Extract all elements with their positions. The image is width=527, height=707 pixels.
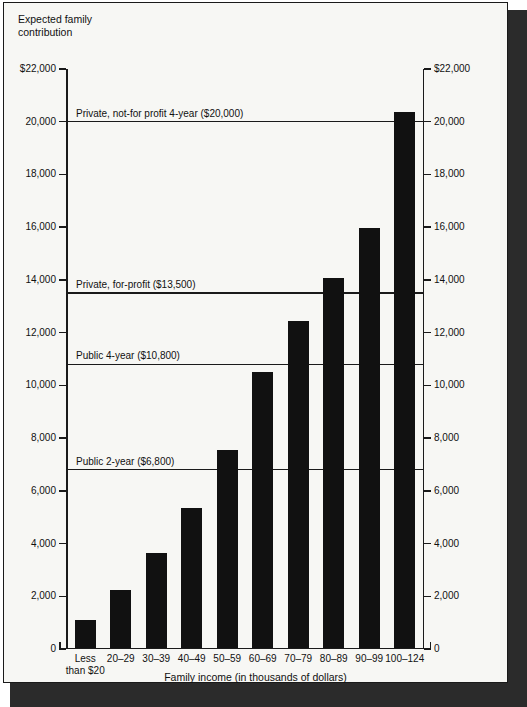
y-tick-right xyxy=(424,226,431,228)
bar xyxy=(75,620,96,647)
y-tick-label-right: $22,000 xyxy=(434,63,470,74)
y-tick-label-right: 6,000 xyxy=(434,485,459,496)
y-tick-left xyxy=(59,648,66,650)
y-tick-label-right: 4,000 xyxy=(434,538,459,549)
y-tick-label-left: 16,000 xyxy=(25,221,56,232)
x-tick-label: 100–124 xyxy=(379,653,430,665)
y-tick-left xyxy=(59,437,66,439)
y-tick-right xyxy=(424,385,431,387)
reference-line xyxy=(66,121,424,123)
y-tick-left xyxy=(59,174,66,176)
bar xyxy=(181,508,202,648)
y-tick-label-left: 0 xyxy=(50,643,56,654)
y-tick-label-left: 8,000 xyxy=(31,432,56,443)
x-axis-title: Family income (in thousands of dollars) xyxy=(4,671,507,683)
plot-inner: 02,0004,0006,0008,00010,00012,00014,0001… xyxy=(66,69,424,649)
y-tick-label-right: 8,000 xyxy=(434,432,459,443)
y-tick-label-left: 4,000 xyxy=(31,538,56,549)
y-tick-right xyxy=(424,279,431,281)
plot-area: 02,0004,0006,0008,00010,00012,00014,0001… xyxy=(66,69,424,649)
y-tick-label-right: 18,000 xyxy=(434,168,465,179)
y-tick-left xyxy=(59,385,66,387)
y-tick-right xyxy=(424,648,431,650)
y-axis-left-line xyxy=(66,69,68,649)
reference-line-label: Public 2-year ($6,800) xyxy=(76,456,174,467)
y-tick-label-right: 20,000 xyxy=(434,116,465,127)
y-tick-left xyxy=(59,279,66,281)
y-tick-label-left: 14,000 xyxy=(25,274,56,285)
bar xyxy=(217,450,238,648)
chart-figure: Expected family contribution 02,0004,000… xyxy=(3,2,508,683)
y-tick-label-left: $22,000 xyxy=(20,63,56,74)
bar xyxy=(146,553,167,648)
y-tick-left xyxy=(59,121,66,123)
bar xyxy=(110,590,131,648)
y-tick-left xyxy=(59,332,66,334)
y-tick-right xyxy=(424,174,431,176)
y-tick-label-right: 0 xyxy=(434,643,440,654)
y-tick-label-right: 16,000 xyxy=(434,221,465,232)
y-axis-title: Expected family contribution xyxy=(18,13,92,38)
y-tick-left xyxy=(59,543,66,545)
y-tick-right xyxy=(424,68,431,70)
bar xyxy=(288,321,309,648)
y-tick-label-left: 10,000 xyxy=(25,379,56,390)
y-tick-left xyxy=(59,226,66,228)
reference-line-label: Public 4-year ($10,800) xyxy=(76,350,180,361)
y-tick-label-left: 6,000 xyxy=(31,485,56,496)
bar xyxy=(394,112,415,647)
y-tick-label-right: 14,000 xyxy=(434,274,465,285)
reference-line-label: Private, not-for profit 4-year ($20,000) xyxy=(76,108,243,119)
y-tick-label-right: 2,000 xyxy=(434,590,459,601)
y-tick-label-right: 12,000 xyxy=(434,327,465,338)
y-axis-right-line xyxy=(423,69,425,649)
y-tick-label-right: 10,000 xyxy=(434,379,465,390)
y-tick-label-left: 2,000 xyxy=(31,590,56,601)
bar xyxy=(323,278,344,647)
y-tick-right xyxy=(424,490,431,492)
y-tick-left xyxy=(59,68,66,70)
y-tick-right xyxy=(424,121,431,123)
x-axis-line xyxy=(59,648,431,650)
y-tick-left xyxy=(59,490,66,492)
y-tick-right xyxy=(424,543,431,545)
y-tick-label-left: 12,000 xyxy=(25,327,56,338)
y-tick-label-left: 20,000 xyxy=(25,116,56,127)
y-tick-right xyxy=(424,596,431,598)
y-tick-right xyxy=(424,332,431,334)
y-tick-left xyxy=(59,596,66,598)
reference-line-label: Private, for-profit ($13,500) xyxy=(76,279,196,290)
bar xyxy=(252,372,273,648)
y-tick-label-left: 18,000 xyxy=(25,168,56,179)
bar xyxy=(359,228,380,647)
y-tick-right xyxy=(424,437,431,439)
